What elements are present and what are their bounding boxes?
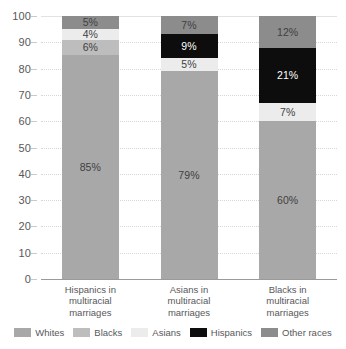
y-axis: 0102030405060708090100 bbox=[0, 16, 36, 279]
bar-group[interactable]: 5%4%6%85% bbox=[62, 16, 119, 279]
bar-stack: 5%4%6%85% bbox=[62, 16, 119, 279]
bar-segment-value-label: 79% bbox=[178, 170, 199, 181]
y-axis-tick-label: 50 bbox=[19, 142, 31, 154]
bar-segment-value-label: 85% bbox=[80, 162, 101, 173]
legend-color-swatch bbox=[261, 328, 278, 337]
y-axis-tick-mark bbox=[31, 16, 37, 17]
category-label-line: multiracial bbox=[240, 295, 336, 306]
y-axis-tick-label: 0 bbox=[25, 273, 31, 285]
category-label-line: multiracial bbox=[141, 295, 237, 306]
category-axis-labels: Hispanics inmultiracialmarriagesAsians i… bbox=[41, 284, 337, 324]
bar-segment[interactable]: 4% bbox=[62, 29, 119, 40]
legend-color-swatch bbox=[73, 328, 90, 337]
bar-segment[interactable]: 7% bbox=[161, 16, 218, 34]
stacked-bar-chart: 0102030405060708090100 5%4%6%85%7%9%5%79… bbox=[0, 0, 346, 349]
category-label-line: Blacks in bbox=[240, 284, 336, 295]
bar-segment[interactable]: 7% bbox=[259, 103, 316, 121]
bar-segment[interactable]: 5% bbox=[161, 58, 218, 71]
legend-label: Asians bbox=[152, 327, 181, 338]
bar-segment-value-label: 60% bbox=[277, 195, 298, 206]
axis-baseline bbox=[41, 279, 337, 280]
bar-stack: 7%9%5%79% bbox=[161, 16, 218, 279]
y-axis-tick-label: 10 bbox=[19, 247, 31, 259]
y-axis-tick-mark bbox=[31, 121, 37, 122]
category-label-line: marriages bbox=[42, 307, 138, 318]
category-label: Asians inmultiracialmarriages bbox=[141, 284, 237, 318]
category-label-line: Hispanics in bbox=[42, 284, 138, 295]
category-label: Hispanics inmultiracialmarriages bbox=[42, 284, 138, 318]
bar-segment[interactable]: 79% bbox=[161, 71, 218, 279]
legend-color-swatch bbox=[190, 328, 207, 337]
legend-label: Hispanics bbox=[211, 327, 252, 338]
category-label-line: Asians in bbox=[141, 284, 237, 295]
bar-segment-value-label: 12% bbox=[277, 27, 298, 38]
bar-segment-value-label: 7% bbox=[181, 20, 196, 31]
bar-group[interactable]: 12%21%7%60% bbox=[259, 16, 316, 279]
y-axis-tick-mark bbox=[31, 42, 37, 43]
legend-item[interactable]: Whites bbox=[14, 327, 64, 338]
y-axis-tick-mark bbox=[31, 226, 37, 227]
legend-label: Whites bbox=[35, 327, 64, 338]
y-axis-tick-label: 30 bbox=[19, 194, 31, 206]
y-axis-tick-label: 80 bbox=[19, 63, 31, 75]
bar-segment[interactable]: 60% bbox=[259, 121, 316, 279]
category-label-line: marriages bbox=[240, 307, 336, 318]
y-axis-tick-label: 60 bbox=[19, 115, 31, 127]
bar-segment[interactable]: 6% bbox=[62, 40, 119, 56]
y-axis-tick-mark bbox=[31, 95, 37, 96]
y-axis-tick-mark bbox=[31, 200, 37, 201]
bar-segment-value-label: 5% bbox=[181, 59, 196, 70]
bar-group[interactable]: 7%9%5%79% bbox=[161, 16, 218, 279]
bar-segment[interactable]: 85% bbox=[62, 55, 119, 279]
y-axis-tick-label: 40 bbox=[19, 168, 31, 180]
bar-segment[interactable]: 9% bbox=[161, 34, 218, 58]
y-axis-tick-label: 20 bbox=[19, 220, 31, 232]
legend-label: Blacks bbox=[94, 327, 122, 338]
legend-item[interactable]: Hispanics bbox=[190, 327, 252, 338]
bars-layer: 5%4%6%85%7%9%5%79%12%21%7%60% bbox=[41, 16, 337, 279]
bar-stack: 12%21%7%60% bbox=[259, 16, 316, 279]
y-axis-tick-mark bbox=[31, 69, 37, 70]
legend-label: Other races bbox=[282, 327, 332, 338]
legend-item[interactable]: Asians bbox=[131, 327, 181, 338]
y-axis-tick-mark bbox=[31, 174, 37, 175]
y-axis-tick-mark bbox=[31, 279, 37, 280]
legend-color-swatch bbox=[14, 328, 31, 337]
y-axis-tick-label: 70 bbox=[19, 89, 31, 101]
category-label-line: multiracial bbox=[42, 295, 138, 306]
bar-segment-value-label: 7% bbox=[280, 107, 295, 118]
legend-item[interactable]: Blacks bbox=[73, 327, 122, 338]
y-axis-tick-label: 100 bbox=[12, 10, 31, 22]
legend-color-swatch bbox=[131, 328, 148, 337]
bar-segment-value-label: 4% bbox=[83, 29, 98, 40]
bar-segment-value-label: 6% bbox=[83, 42, 98, 53]
bar-segment-value-label: 9% bbox=[181, 41, 196, 52]
category-label: Blacks inmultiracialmarriages bbox=[240, 284, 336, 318]
y-axis-tick-mark bbox=[31, 253, 37, 254]
category-label-line: marriages bbox=[141, 307, 237, 318]
plot-area: 5%4%6%85%7%9%5%79%12%21%7%60% bbox=[41, 16, 337, 279]
bar-segment-value-label: 21% bbox=[277, 70, 298, 81]
legend: WhitesBlacksAsiansHispanicsOther races bbox=[0, 327, 346, 338]
y-axis-tick-label: 90 bbox=[19, 36, 31, 48]
legend-item[interactable]: Other races bbox=[261, 327, 332, 338]
bar-segment[interactable]: 21% bbox=[259, 48, 316, 103]
bar-segment[interactable]: 12% bbox=[259, 16, 316, 48]
bar-segment-value-label: 5% bbox=[83, 17, 98, 28]
y-axis-tick-mark bbox=[31, 148, 37, 149]
